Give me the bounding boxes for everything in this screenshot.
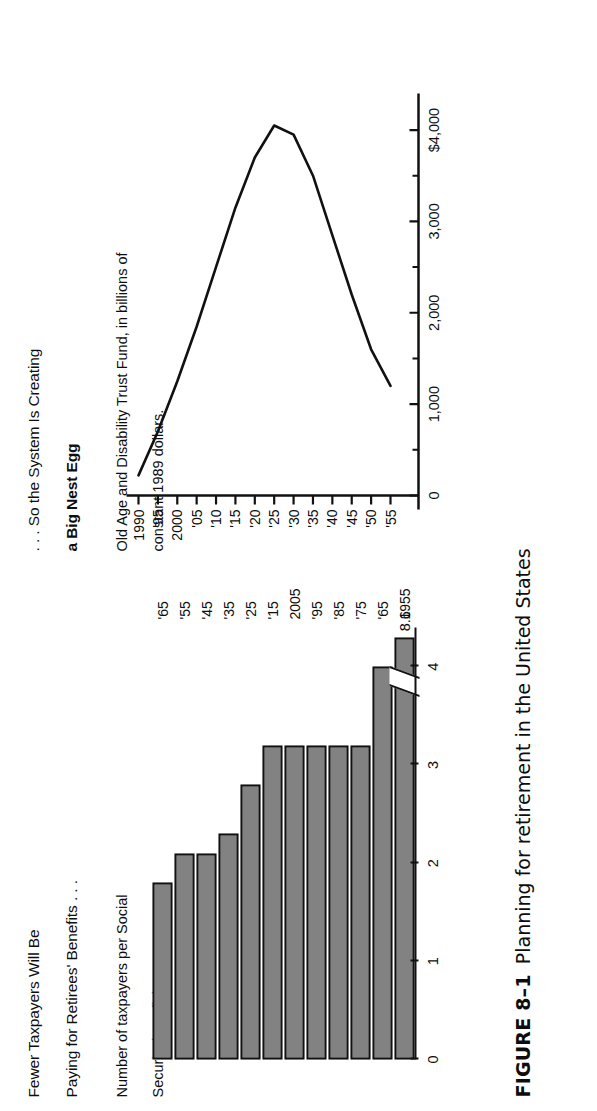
bar-chart-category-label: '95: [306, 549, 326, 619]
bar-chart-category-label: 1955: [394, 549, 414, 619]
line-chart-title: . . . So the System Is Creating a Big Ne…: [4, 31, 80, 551]
bar-chart-category-label: 2005: [284, 549, 304, 619]
bar-chart-tick-label: 3: [424, 760, 440, 768]
bar-row: [196, 627, 216, 1059]
bar-chart-tick-label: 0: [424, 1055, 440, 1063]
bar-row: [372, 627, 392, 1059]
line-chart-category-tick-label: '20: [246, 509, 262, 527]
bar-row: 8.6: [394, 627, 414, 1059]
bar-chart-category-label: '85: [328, 549, 348, 619]
bar-chart-panel: Fewer Taxpayers Will Be Paying for Retir…: [4, 597, 474, 1097]
bar-chart-plot-area: 8.6 01234 '65'55'45'35'25'152005'95'85'7…: [122, 627, 442, 1097]
bar: [218, 833, 238, 1059]
line-chart-category-tick-label: 2000: [169, 509, 185, 540]
line-chart-value-tick-label: $4,000: [425, 107, 441, 151]
line-chart-title-line2: a Big Nest Egg: [62, 443, 79, 551]
figure-caption-number: FIGURE 8–1: [511, 974, 533, 1097]
bar-chart-category-axis: '65'55'45'35'25'152005'95'85'75'651955: [122, 549, 414, 619]
line-chart-category-tick-label: '05: [188, 509, 204, 527]
line-chart-category-tick-label: '15: [227, 509, 243, 527]
bar-chart-category-label: '25: [240, 549, 260, 619]
bar: [284, 745, 304, 1059]
figure-body: Fewer Taxpayers Will Be Paying for Retir…: [0, 0, 500, 1111]
bar-chart-category-label: '45: [196, 549, 216, 619]
bar: [306, 745, 326, 1059]
bar-chart-tick: [410, 1057, 418, 1059]
line-chart-value-tick-label: 2,000: [425, 294, 441, 330]
bar-row: [328, 627, 348, 1059]
line-chart-value-tick-label: 3,000: [425, 203, 441, 239]
line-chart-category-tick-label: 1990: [130, 509, 146, 540]
bar: [262, 745, 282, 1059]
bar-row: [240, 627, 260, 1059]
line-chart-series: [138, 125, 390, 475]
line-chart-svg: 01,0002,0003,000$4,0001990'952000'05'10'…: [122, 51, 452, 551]
bar-row: [152, 627, 172, 1059]
bar-row: [306, 627, 326, 1059]
bar-chart-tick-label: 2: [424, 859, 440, 867]
bar-chart-category-label: '65: [372, 549, 392, 619]
bar: [152, 882, 172, 1059]
line-chart-category-tick-label: '30: [285, 509, 301, 527]
bar-chart-tick: [410, 959, 418, 961]
bar-series: 8.6: [122, 627, 414, 1059]
bar: [240, 784, 260, 1059]
bar-row: [350, 627, 370, 1059]
bar-row: [262, 627, 282, 1059]
line-chart-category-tick-label: '10: [208, 509, 224, 527]
page-canvas: Fewer Taxpayers Will Be Paying for Retir…: [0, 0, 597, 1111]
bar-chart-category-label: '15: [262, 549, 282, 619]
line-chart-value-tick-label: 1,000: [425, 385, 441, 421]
bar-chart-category-label: '75: [350, 549, 370, 619]
bar-row: [218, 627, 238, 1059]
bar-chart-tick: [410, 664, 418, 666]
bar-chart-tick-label: 4: [424, 662, 440, 670]
line-chart-category-tick-label: '55: [382, 509, 398, 527]
line-chart-panel: . . . So the System Is Creating a Big Ne…: [4, 31, 474, 551]
line-chart-category-tick-label: '45: [343, 509, 359, 527]
bar: [372, 666, 392, 1059]
bar: [394, 637, 414, 1059]
bar: [174, 853, 194, 1059]
line-chart-value-tick-label: 0: [425, 491, 441, 499]
bar-chart-category-label: '65: [152, 549, 172, 619]
bar-chart-value-axis: 01234: [416, 627, 442, 1059]
bar-chart-title-line1: Fewer Taxpayers Will Be: [24, 929, 41, 1097]
bar-chart-category-label: '35: [218, 549, 238, 619]
bar-chart-tick: [410, 762, 418, 764]
line-chart-category-tick-label: '50: [363, 509, 379, 527]
bar: [328, 745, 348, 1059]
figure-stage: Fewer Taxpayers Will Be Paying for Retir…: [0, 0, 597, 1111]
figure-caption-text: Planning for retirement in the United St…: [511, 548, 533, 964]
bar-chart-title: Fewer Taxpayers Will Be Paying for Retir…: [4, 597, 80, 1097]
bar-chart-tick: [410, 861, 418, 863]
bar-chart-title-line2: Paying for Retirees' Benefits . . .: [62, 880, 79, 1097]
line-chart-category-tick-label: '40: [324, 509, 340, 527]
line-chart-title-line1: . . . So the System Is Creating: [24, 348, 41, 551]
figure-caption: FIGURE 8–1Planning for retirement in the…: [510, 17, 534, 1097]
bar-chart-tick-label: 1: [424, 957, 440, 965]
bar: [196, 853, 216, 1059]
line-chart-category-tick-label: '95: [149, 509, 165, 527]
bar: [350, 745, 370, 1059]
bar-chart-category-label: '55: [174, 549, 194, 619]
line-chart-category-tick-label: '25: [266, 509, 282, 527]
line-chart-plot-area: 01,0002,0003,000$4,0001990'952000'05'10'…: [122, 51, 452, 551]
line-chart-category-tick-label: '35: [304, 509, 320, 527]
bar-row: [174, 627, 194, 1059]
bar-row: [284, 627, 304, 1059]
